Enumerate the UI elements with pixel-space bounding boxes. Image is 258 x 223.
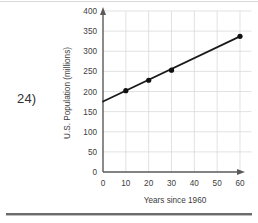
x-tick-label: 60 bbox=[235, 179, 245, 188]
data-point-marker bbox=[169, 68, 174, 73]
x-tick-label: 20 bbox=[144, 179, 154, 188]
y-tick-label: 350 bbox=[83, 27, 97, 36]
x-tick-label: 40 bbox=[190, 179, 200, 188]
page-bottom-divider-shadow bbox=[6, 215, 252, 216]
data-point-marker bbox=[237, 34, 242, 39]
y-tick-label: 200 bbox=[83, 88, 97, 97]
y-tick-label: 50 bbox=[88, 148, 98, 157]
y-tick-label: 150 bbox=[83, 108, 97, 117]
x-tick-label: 10 bbox=[121, 179, 131, 188]
x-tick-label: 0 bbox=[101, 179, 106, 188]
y-tick-label: 0 bbox=[92, 168, 97, 177]
y-tick-label: 100 bbox=[83, 128, 97, 137]
y-tick-labels: 050100150200250300350400 bbox=[83, 7, 97, 177]
data-point-marker bbox=[146, 78, 151, 83]
data-point-marker bbox=[123, 88, 128, 93]
y-tick-label: 300 bbox=[83, 47, 97, 56]
x-tick-labels: 0102030405060 bbox=[101, 179, 245, 188]
x-tick-label: 30 bbox=[167, 179, 177, 188]
chart-svg: 050100150200250300350400 0102030405060 U… bbox=[0, 0, 258, 210]
x-tick-label: 50 bbox=[213, 179, 223, 188]
x-axis bbox=[103, 169, 245, 175]
worksheet-page: 24) 050100150200250300350400 01020304050… bbox=[0, 0, 258, 223]
x-axis-title: Years since 1960 bbox=[144, 196, 207, 205]
y-axis bbox=[100, 7, 106, 172]
y-gridlines bbox=[103, 11, 251, 152]
y-tick-label: 400 bbox=[83, 7, 97, 16]
population-line-chart: 050100150200250300350400 0102030405060 U… bbox=[0, 0, 258, 210]
y-tick-label: 250 bbox=[83, 67, 97, 76]
y-axis-title: U.S. Population (millions) bbox=[63, 47, 72, 139]
